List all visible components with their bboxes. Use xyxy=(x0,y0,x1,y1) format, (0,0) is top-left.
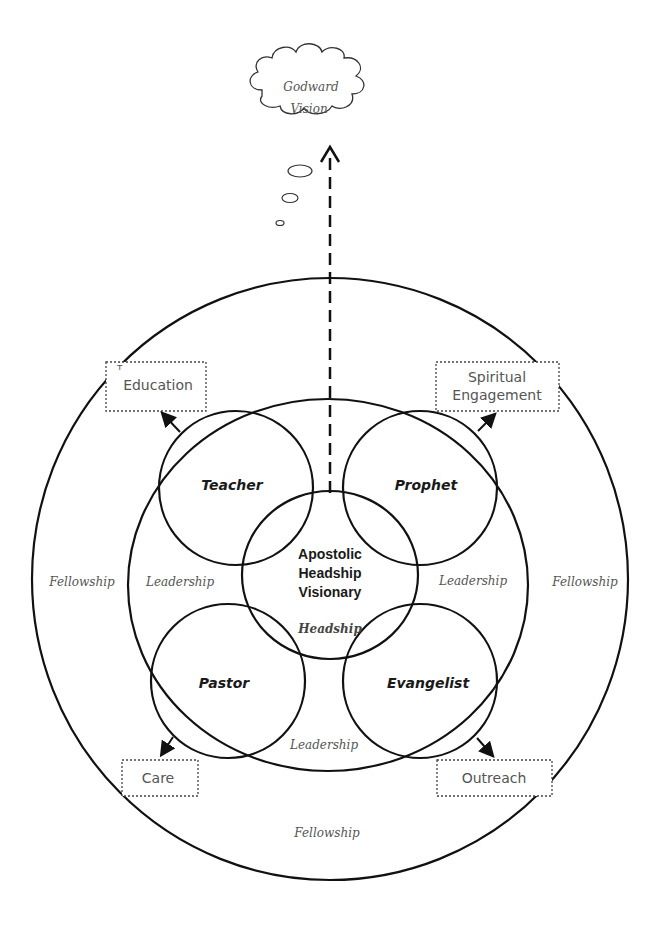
spiritual-line-2: Engagement xyxy=(452,387,542,403)
evangelist-to-outreach-arrow xyxy=(477,738,492,755)
cloud-line-2: Vision xyxy=(290,102,327,116)
care-label: Care xyxy=(142,770,174,786)
education-prefix-mark: ᵀ xyxy=(116,362,123,378)
outreach-label: Outreach xyxy=(462,770,527,786)
spiritual-line-1: Spiritual xyxy=(468,369,526,385)
center-line-1: Apostolic xyxy=(298,546,362,562)
teacher-to-education-arrow xyxy=(163,414,180,432)
leadership-bottom-label: Leadership xyxy=(289,738,358,752)
vision-arrow xyxy=(321,147,339,493)
care-box: Care xyxy=(122,760,198,796)
leadership-left-label: Leadership xyxy=(145,575,214,589)
spiritual-engagement-box: Spiritual Engagement xyxy=(436,362,559,411)
center-headship-label: Headship xyxy=(297,622,362,636)
fellowship-right-label: Fellowship xyxy=(551,575,618,589)
education-box: ᵀ Education xyxy=(106,362,206,411)
cloud-line-1: Godward xyxy=(283,80,339,94)
pastor-label: Pastor xyxy=(199,675,250,691)
leadership-right-label: Leadership xyxy=(438,574,507,588)
fellowship-bottom-label: Fellowship xyxy=(293,826,360,840)
prophet-to-spiritual-arrow xyxy=(478,415,494,431)
godward-vision-cloud: Godward Vision xyxy=(250,44,364,226)
center-line-3: Visionary xyxy=(299,584,362,600)
prophet-label: Prophet xyxy=(395,477,459,493)
pastor-to-care-arrow xyxy=(162,737,173,754)
thought-bubble-medium xyxy=(282,194,298,203)
education-label: Education xyxy=(123,377,193,393)
teacher-label: Teacher xyxy=(201,477,263,493)
outreach-box: Outreach xyxy=(437,760,552,796)
thought-bubble-small xyxy=(276,221,284,226)
evangelist-label: Evangelist xyxy=(387,675,471,691)
thought-bubble-large xyxy=(288,165,312,177)
fivefold-ministry-diagram: Godward Vision Apostolic Headship Vision… xyxy=(0,0,658,939)
fellowship-left-label: Fellowship xyxy=(48,575,115,589)
center-line-2: Headship xyxy=(298,565,361,581)
